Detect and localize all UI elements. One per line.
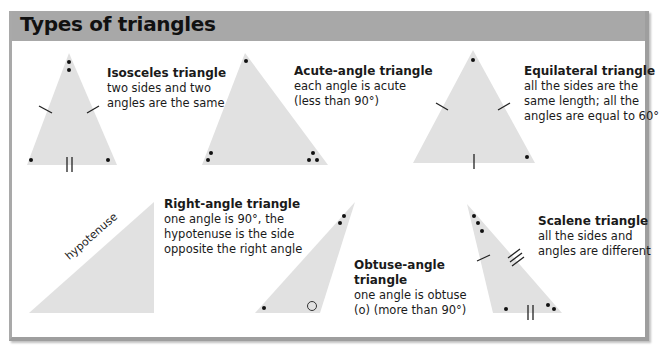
scalene-desc-1: all the sides and xyxy=(538,229,651,244)
equilateral-desc-2: same length; all the xyxy=(524,94,659,109)
triangles-diagram xyxy=(0,0,661,351)
obtuse-label: Obtuse-angle triangle one angle is obtus… xyxy=(354,258,467,318)
right-angle-label: Right-angle triangle one angle is 90°, t… xyxy=(164,197,302,257)
obtuse-desc-1: one angle is obtuse xyxy=(354,288,467,303)
acute-desc-1: each angle is acute xyxy=(294,79,433,94)
obtuse-title-2: triangle xyxy=(354,273,467,288)
obtuse-desc-2: (o) (more than 90°) xyxy=(354,303,467,318)
scalene-label: Scalene triangle all the sides and angle… xyxy=(538,214,651,259)
obtuse-title-1: Obtuse-angle xyxy=(354,258,467,273)
equilateral-desc-3: angles are equal to 60° xyxy=(524,109,659,124)
equilateral-desc-1: all the sides are the xyxy=(524,79,659,94)
isosceles-label: Isosceles triangle two sides and two ang… xyxy=(107,66,226,111)
acute-label: Acute-angle triangle each angle is acute… xyxy=(294,64,433,109)
isosceles-triangle-shape xyxy=(27,53,117,165)
isosceles-title: Isosceles triangle xyxy=(107,66,226,81)
isosceles-desc-1: two sides and two xyxy=(107,81,226,96)
right-angle-title: Right-angle triangle xyxy=(164,197,302,212)
equilateral-title: Equilateral triangle xyxy=(524,64,659,79)
acute-desc-2: (less than 90°) xyxy=(294,94,433,109)
right-desc-1: one angle is 90°, the xyxy=(164,212,302,227)
right-desc-2: hypotenuse is the side xyxy=(164,227,302,242)
equilateral-label: Equilateral triangle all the sides are t… xyxy=(524,64,659,124)
acute-title: Acute-angle triangle xyxy=(294,64,433,79)
right-desc-3: opposite the right angle xyxy=(164,242,302,257)
scalene-desc-2: angles are different xyxy=(538,244,651,259)
isosceles-desc-2: angles are the same xyxy=(107,96,226,111)
scalene-title: Scalene triangle xyxy=(538,214,651,229)
right-triangle-shape xyxy=(29,202,154,313)
